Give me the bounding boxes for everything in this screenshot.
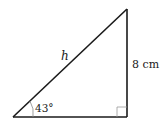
angle-label: 43°: [35, 102, 54, 114]
right-angle-marker: [117, 107, 127, 117]
side-length-label: 8 cm: [132, 58, 160, 71]
triangle-diagram: h 8 cm 43°: [0, 0, 162, 125]
hypotenuse-label: h: [61, 49, 69, 63]
angle-arc: [30, 101, 33, 117]
hypotenuse: [13, 9, 127, 117]
